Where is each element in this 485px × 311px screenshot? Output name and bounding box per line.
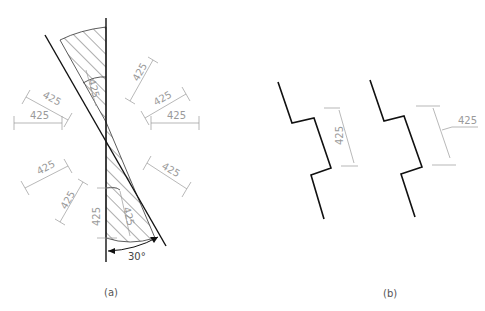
angle-label: 30° bbox=[128, 251, 146, 262]
zigzag-profile-right bbox=[370, 80, 422, 217]
dim-label-inline: 425 bbox=[334, 126, 345, 145]
dim-label-upper-right-2: 425 bbox=[152, 89, 174, 108]
dim-label-right: 425 bbox=[167, 110, 186, 121]
dim-label-upper-left: 425 bbox=[41, 89, 63, 108]
panel-a: 30° 425 425 42 bbox=[14, 18, 199, 298]
caption-b: (b) bbox=[383, 288, 397, 299]
dim-label-lower-left-2: 425 bbox=[58, 189, 77, 211]
dim-label-leader: 425 bbox=[458, 115, 477, 126]
panel-b: 425 425 (b) bbox=[278, 80, 478, 299]
dim-label-lower-right: 425 bbox=[160, 160, 182, 179]
dim-label-lower-left-1: 425 bbox=[35, 158, 57, 177]
drawing-canvas: 30° 425 425 42 bbox=[0, 0, 485, 311]
zigzag-profile-left bbox=[278, 82, 331, 219]
dim-label-vertical: 425 bbox=[91, 207, 102, 226]
caption-a: (a) bbox=[104, 287, 118, 298]
dim-label-left: 425 bbox=[30, 110, 49, 121]
